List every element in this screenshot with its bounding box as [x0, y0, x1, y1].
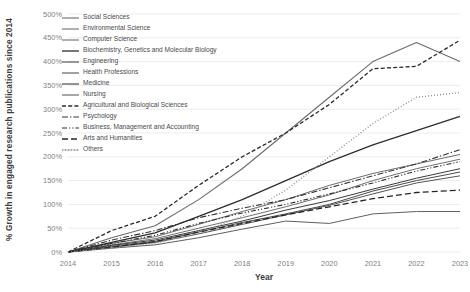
- x-tick-label: 2019: [278, 259, 294, 268]
- y-tick-label: 350%: [43, 81, 62, 90]
- legend-item[interactable]: Psychology: [62, 111, 292, 122]
- x-tick-label: 2020: [321, 259, 337, 268]
- legend-label: Psychology: [83, 113, 117, 120]
- legend-label: Computer Science: [83, 36, 137, 43]
- y-tick-label: 400%: [43, 57, 62, 66]
- legend-swatch-icon: [62, 25, 79, 33]
- y-tick-label: 250%: [43, 129, 62, 138]
- legend-item[interactable]: Others: [62, 144, 292, 155]
- legend-label: Biochemistry, Genetics and Molecular Bio…: [83, 47, 217, 54]
- legend-label: Others: [83, 146, 103, 153]
- legend-swatch-icon: [62, 14, 79, 22]
- legend-item[interactable]: Health Professions: [62, 67, 292, 78]
- legend-swatch-icon: [62, 113, 79, 121]
- y-tick-label: 100%: [43, 200, 62, 209]
- x-tick-label: 2014: [60, 259, 76, 268]
- y-tick-label: 200%: [43, 152, 62, 161]
- x-tick-label: 2015: [103, 259, 119, 268]
- x-tick-label: 2022: [408, 259, 424, 268]
- x-tick-label: 2021: [365, 259, 381, 268]
- x-tick-label: 2017: [190, 259, 206, 268]
- legend-label: Nursing: [83, 91, 106, 98]
- legend-item[interactable]: Nursing: [62, 89, 292, 100]
- legend-label: Business, Management and Accounting: [83, 124, 199, 131]
- legend-item[interactable]: Arts and Humanities: [62, 133, 292, 144]
- legend-swatch-icon: [62, 146, 79, 154]
- series-line: [68, 176, 460, 252]
- legend-swatch-icon: [62, 58, 79, 66]
- legend-label: Health Professions: [83, 69, 138, 76]
- legend-label: Social Sciences: [83, 14, 130, 21]
- chart-legend: Social SciencesEnvironmental ScienceComp…: [62, 12, 292, 155]
- legend-swatch-icon: [62, 102, 79, 110]
- legend-item[interactable]: Engineering: [62, 56, 292, 67]
- y-tick-label: 150%: [43, 176, 62, 185]
- growth-line-chart: % Growth in engaged research publication…: [0, 0, 470, 292]
- x-tick-labels: 2014201520162017201820192020202120222023: [60, 259, 468, 268]
- series-line: [68, 150, 460, 252]
- legend-swatch-icon: [62, 91, 79, 99]
- y-tick-label: 500%: [43, 10, 62, 19]
- legend-swatch-icon: [62, 69, 79, 77]
- legend-item[interactable]: Biochemistry, Genetics and Molecular Bio…: [62, 45, 292, 56]
- legend-label: Environmental Science: [83, 25, 150, 32]
- x-axis-title: Year: [68, 272, 460, 282]
- legend-label: Arts and Humanities: [83, 135, 142, 142]
- legend-item[interactable]: Social Sciences: [62, 12, 292, 23]
- legend-label: Agricultural and Biological Sciences: [83, 102, 187, 109]
- legend-item[interactable]: Computer Science: [62, 34, 292, 45]
- x-tick-label: 2018: [234, 259, 250, 268]
- y-tick-label: 300%: [43, 105, 62, 114]
- legend-swatch-icon: [62, 36, 79, 44]
- series-line: [68, 162, 460, 252]
- y-tick-label: 0%: [51, 248, 62, 257]
- x-tick-label: 2016: [147, 259, 163, 268]
- y-tick-label: 450%: [43, 33, 62, 42]
- legend-item[interactable]: Agricultural and Biological Sciences: [62, 100, 292, 111]
- legend-swatch-icon: [62, 47, 79, 55]
- legend-item[interactable]: Medicine: [62, 78, 292, 89]
- legend-label: Medicine: [83, 80, 109, 87]
- legend-item[interactable]: Environmental Science: [62, 23, 292, 34]
- y-tick-label: 50%: [47, 224, 62, 233]
- y-tick-labels: 0%50%100%150%200%250%300%350%400%450%500…: [43, 10, 62, 257]
- legend-swatch-icon: [62, 124, 79, 132]
- legend-item[interactable]: Business, Management and Accounting: [62, 122, 292, 133]
- legend-label: Engineering: [83, 58, 118, 65]
- legend-swatch-icon: [62, 135, 79, 143]
- x-tick-label: 2023: [452, 259, 468, 268]
- legend-swatch-icon: [62, 80, 79, 88]
